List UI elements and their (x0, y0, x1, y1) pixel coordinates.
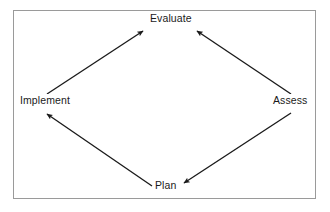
arrow-implement-to-evaluate (47, 31, 143, 94)
node-label-evaluate: Evaluate (148, 12, 194, 24)
arrow-assess-to-evaluate (197, 31, 291, 94)
diagram-canvas: Evaluate Assess Plan Implement (0, 0, 330, 212)
node-label-implement: Implement (18, 94, 72, 106)
node-label-assess: Assess (271, 94, 309, 106)
node-label-plan: Plan (153, 179, 178, 191)
arrow-assess-to-plan (184, 113, 291, 183)
arrow-plan-to-implement (47, 114, 152, 186)
